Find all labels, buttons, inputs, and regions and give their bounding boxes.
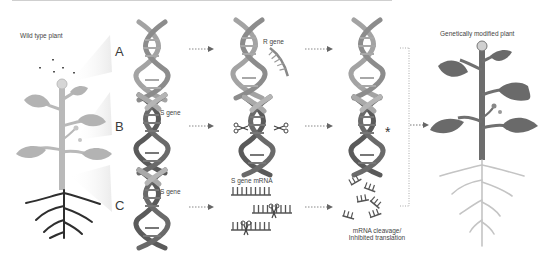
wild-type-plant	[16, 59, 112, 238]
mrna-cleavage-line-1: mRNA cleavage/	[338, 227, 416, 234]
row-c-gene-label: S gene	[160, 188, 181, 195]
row-b-gene-label: S gene	[160, 109, 181, 116]
gm-plant-label: Genetically modified plant	[440, 30, 514, 37]
row-b-letter: B	[115, 119, 124, 134]
merge-bracket	[400, 48, 409, 206]
s-gene-mrna-label: S gene mRNA	[231, 177, 273, 184]
dna-b-result	[351, 97, 383, 175]
row-a-letter: A	[115, 44, 124, 59]
genetically-modified-plant	[430, 41, 538, 246]
dna-c-initial	[136, 170, 168, 248]
wild-type-label: Wild type plant	[20, 32, 63, 39]
dna-b-initial	[136, 95, 168, 173]
r-gene-label: R gene	[263, 38, 284, 45]
scissors-left-icon	[234, 123, 248, 133]
diagram-canvas: Wild type plant Genetically modified pla…	[0, 0, 555, 256]
dna-a-middle	[233, 20, 265, 98]
mrna-cleavage-label: mRNA cleavage/ Inhibited translation	[338, 227, 416, 241]
scissors-right-icon	[274, 123, 288, 133]
mrna-fragments	[342, 174, 383, 219]
mrna-cleavage-line-2: Inhibited translation	[338, 234, 416, 241]
dna-b-middle	[241, 97, 273, 175]
scissors-mrna-2-icon	[269, 204, 279, 218]
row-c-letter: C	[115, 198, 124, 213]
dna-a-initial	[136, 22, 168, 100]
modification-asterisk: *	[385, 124, 390, 140]
mrna-strand-1	[231, 187, 271, 195]
dna-a-result	[351, 20, 383, 98]
